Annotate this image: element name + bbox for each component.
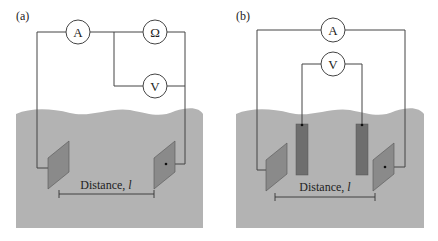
ohmmeter-label: Ω bbox=[150, 25, 160, 40]
voltmeter-b: V bbox=[321, 52, 345, 76]
panel-label-b: (b) bbox=[236, 9, 250, 23]
panel-a: A Ω V Distance, l (a) bbox=[16, 9, 203, 228]
voltmeter-label: V bbox=[328, 57, 338, 72]
ammeter-b: A bbox=[321, 18, 345, 42]
distance-label-b: Distance, l bbox=[299, 180, 351, 194]
panel-label-a: (a) bbox=[16, 9, 29, 23]
ammeter-label: A bbox=[73, 25, 83, 40]
ohmmeter-a: Ω bbox=[143, 20, 167, 44]
contact-dot bbox=[165, 163, 168, 166]
diagram-canvas: A Ω V Distance, l (a) bbox=[0, 0, 438, 241]
ammeter-label: A bbox=[328, 23, 338, 38]
ground-b bbox=[236, 108, 424, 228]
distance-label-a: Distance, l bbox=[80, 178, 132, 192]
panel-b: A V Distance, l (b) bbox=[236, 9, 424, 228]
potential-probe-right bbox=[356, 124, 368, 175]
voltmeter-a: V bbox=[143, 74, 167, 98]
potential-probe-left bbox=[296, 124, 308, 175]
ammeter-a: A bbox=[66, 20, 90, 44]
voltmeter-label: V bbox=[150, 79, 160, 94]
